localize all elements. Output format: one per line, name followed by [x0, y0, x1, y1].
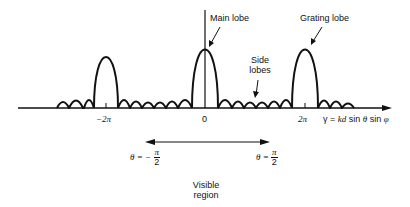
theta-upper-bound: θ = π 2: [256, 148, 278, 167]
main-lobe-label: Main lobe: [210, 13, 249, 23]
fraction-denominator: 2: [154, 158, 161, 167]
pattern-plot: [0, 0, 410, 207]
side-lobes-label-line2: lobes: [245, 65, 275, 75]
visible-region-line2: region: [186, 190, 226, 200]
tick-label-2pi: 2π: [298, 114, 307, 124]
theta-upper-prefix: θ =: [256, 152, 271, 162]
phi-symbol: φ: [384, 114, 389, 124]
kd-term: kd: [338, 114, 347, 124]
theta-lower-bound: θ = − π 2: [130, 148, 160, 167]
tick-label-0: 0: [202, 114, 207, 124]
equals-sign: =: [328, 114, 338, 124]
grating-lobe-pointer-head-icon: [311, 38, 316, 45]
tick-label-minus-2pi: −2π: [96, 114, 111, 124]
grating-lobe-left: [94, 57, 118, 108]
sin-term-2: sin: [367, 114, 384, 124]
main-lobe-pointer-head-icon: [209, 40, 214, 47]
side-lobes-left: [57, 100, 94, 108]
side-lobes-middle-left: [118, 100, 192, 108]
visible-region-line1: Visible: [186, 180, 226, 190]
minus-pi-over-2: π 2: [154, 148, 161, 167]
gamma-axis-label: γ = kd sin θ sin φ: [323, 114, 389, 124]
grating-lobe-right: [292, 50, 318, 109]
side-lobes-label-line1: Side: [245, 55, 275, 65]
visible-region-arrowhead-right-icon: [260, 139, 270, 145]
grating-lobe-label: Grating lobe: [300, 13, 349, 23]
sin-term-1: sin: [346, 114, 363, 124]
side-lobes-pointer-head-icon: [253, 91, 259, 98]
pi-over-2: π 2: [271, 148, 278, 167]
axis-arrowhead-icon: [382, 105, 392, 111]
fraction-denominator: 2: [271, 158, 278, 167]
visible-region-label: Visible region: [186, 180, 226, 200]
visible-region-arrowhead-left-icon: [145, 139, 155, 145]
theta-lower-prefix: θ = −: [130, 152, 151, 162]
side-lobes-right: [318, 101, 354, 109]
side-lobes-middle-right: [218, 100, 292, 108]
side-lobes-label: Side lobes: [245, 55, 275, 75]
